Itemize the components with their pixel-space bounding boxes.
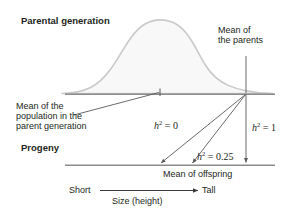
axis-caption-size-height: Size (height) [112,196,163,207]
progeny-title: Progeny [21,143,59,154]
mean-of-parents-label-line1: Mean of [218,25,251,36]
h2-zero-exponent: 2 [159,119,162,126]
h2-zero-label: h2 = 0 [154,120,178,131]
axis-label-short: Short [69,185,91,196]
h2-one-value: 1 [271,122,276,133]
heritability-diagram: Parental generation Mean of the parents … [0,0,294,213]
h2-zero-operator: = [165,120,171,131]
mean-of-offspring-label: Mean of offspring [163,169,232,180]
mean-of-population-label-line1: Mean of the [16,101,64,112]
h2-one-exponent: 2 [257,121,260,128]
axis-label-tall: Tall [202,185,216,196]
h2-quarter-operator: = [208,151,214,162]
h2-quarter-exponent: 2 [202,150,205,157]
mean-of-population-label-line3: parent generation [16,121,87,132]
mean-of-population-label-line2: population in the [16,111,82,122]
h2-one-label: h2 = 1 [252,122,276,133]
mean-of-parents-label-line2: the parents [218,35,263,46]
h2-one-operator: = [263,122,269,133]
h2-quarter-value: 0.25 [216,151,234,162]
population-mean-leader [74,93,159,116]
h2-zero-value: 0 [173,120,178,131]
h2-quarter-label: h2 = 0.25 [197,151,233,162]
parental-generation-title: Parental generation [21,16,110,27]
